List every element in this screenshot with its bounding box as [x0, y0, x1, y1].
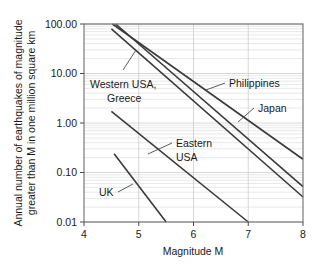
- series-label-western-usa-greece-line2: Greece: [107, 92, 142, 104]
- earthquake-frequency-chart: 100.0010.001.000.100.01 45678 Western US…: [0, 0, 318, 267]
- x-tick-label: 5: [136, 228, 142, 240]
- y-axis-ticks: [80, 24, 84, 222]
- series-label-japan: Japan: [258, 102, 287, 114]
- y-tick-label: 1.00: [57, 117, 78, 129]
- y-axis-tick-labels: 100.0010.001.000.100.01: [45, 18, 77, 228]
- series-label-eastern-usa-line1: Eastern: [176, 137, 212, 149]
- x-axis-tick-labels: 45678: [81, 228, 306, 240]
- y-tick-label: 100.00: [45, 18, 77, 30]
- y-axis-title-line2: greater than M in one million square km: [25, 31, 37, 216]
- x-tick-label: 7: [245, 228, 251, 240]
- series-label-uk: UK: [99, 186, 114, 198]
- series-label-philippines: Philippines: [229, 77, 280, 89]
- x-tick-label: 6: [191, 228, 197, 240]
- series-label-western-usa-greece-line1: Western USA,: [90, 78, 156, 90]
- x-tick-label: 8: [300, 228, 306, 240]
- y-tick-label: 0.10: [57, 166, 78, 178]
- y-axis-title-line1: Annual number of earthquakes of magnitud…: [12, 19, 24, 226]
- series-label-eastern-usa-line2: USA: [176, 151, 198, 163]
- y-tick-label: 0.01: [57, 216, 78, 228]
- chart-canvas: 100.0010.001.000.100.01 45678 Western US…: [0, 0, 318, 267]
- x-axis-title: Magnitude M: [163, 245, 224, 257]
- x-tick-label: 4: [81, 228, 87, 240]
- y-tick-label: 10.00: [51, 67, 77, 79]
- x-axis-ticks: [84, 222, 303, 226]
